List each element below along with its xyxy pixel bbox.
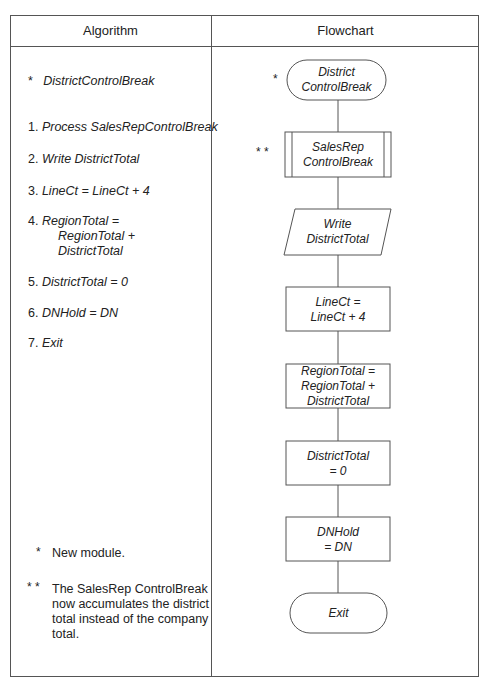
label-line1: SalesRep (292, 140, 384, 155)
flowchart-canvas (0, 0, 489, 692)
label-line2: DistrictTotal (287, 232, 388, 247)
start-node-label: District ControlBreak (287, 65, 386, 95)
label-line3: DistrictTotal (286, 394, 390, 409)
label-line2: ControlBreak (287, 80, 386, 95)
label-line1: RegionTotal = (286, 364, 390, 379)
label-line1: LineCt = (286, 295, 390, 310)
label-line2: = DN (286, 540, 390, 555)
dnhold-node-label: DNHold = DN (286, 525, 390, 555)
label-line1: Exit (290, 606, 387, 621)
label-line1: Write (287, 217, 388, 232)
label-line2: = 0 (286, 464, 390, 479)
linect-node-label: LineCt = LineCt + 4 (286, 295, 390, 325)
salesrep-node-label: SalesRep ControlBreak (292, 140, 384, 170)
label-line2: RegionTotal + (286, 379, 390, 394)
label-line1: DistrictTotal (286, 449, 390, 464)
salesrep-node-marker: * * (256, 145, 269, 159)
label-line2: ControlBreak (292, 155, 384, 170)
district-node-label: DistrictTotal = 0 (286, 449, 390, 479)
write-node-label: Write DistrictTotal (287, 217, 388, 247)
exit-node-label: Exit (290, 606, 387, 621)
label-line1: District (287, 65, 386, 80)
region-node-label: RegionTotal = RegionTotal + DistrictTota… (286, 364, 390, 409)
label-line2: LineCt + 4 (286, 310, 390, 325)
start-node-marker: * (273, 72, 278, 86)
label-line1: DNHold (286, 525, 390, 540)
